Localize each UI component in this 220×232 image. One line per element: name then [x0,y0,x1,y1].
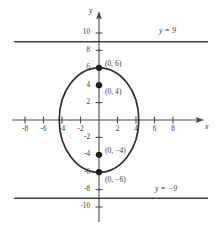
coordinate-plane-svg [0,0,220,232]
point-0-4 [96,82,102,88]
point-0-m6 [96,169,102,175]
graph-figure: 10 8 6 4 2 -2 -4 -6 -8 -10 -8 -6 -4 -2 2… [0,0,220,232]
point-0-m4 [96,152,102,158]
point-0-6 [96,65,102,71]
